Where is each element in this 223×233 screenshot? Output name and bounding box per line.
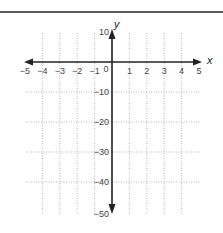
x-tick-label: 4 [179,66,184,76]
x-axis-right-arrow-icon [193,59,202,66]
x-tick-label: −1 [89,66,99,76]
tick-labels: −5−4−3−2−101234510−10−20−30−40−50xy [20,18,213,219]
x-tick-label: 2 [144,66,149,76]
y-tick-label: −40 [94,177,109,187]
y-tick-label: −30 [94,147,109,157]
x-tick-label: −4 [37,66,47,76]
y-tick-label: −20 [94,117,109,127]
y-axis-label: y [113,18,121,30]
y-axis-up-arrow-icon [109,29,116,39]
x-tick-label: 3 [162,66,167,76]
x-tick-label: −2 [72,66,82,76]
y-tick-label: 10 [99,27,109,37]
x-tick-label: 1 [127,66,132,76]
y-axis-down-arrow-icon [109,204,116,214]
x-tick-label: −3 [55,66,65,76]
x-tick-label: 5 [196,66,201,76]
coordinate-plane: −5−4−3−2−101234510−10−20−30−40−50xy [0,0,223,233]
y-tick-label: −10 [94,87,109,97]
axes [24,29,202,214]
x-tick-label: 0 [103,64,108,74]
x-axis-left-arrow-icon [24,59,33,66]
grid-lines [26,33,200,215]
x-tick-label: −5 [20,66,30,76]
y-tick-label: −50 [94,209,109,219]
x-axis-label: x [206,54,213,66]
